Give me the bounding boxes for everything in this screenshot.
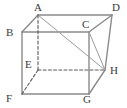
vertex-label-g: G <box>83 94 91 105</box>
vertex-label-a: A <box>34 2 42 13</box>
cube-edge-cd <box>89 15 112 32</box>
hidden-edge-group <box>22 15 105 94</box>
vertex-label-f: F <box>6 93 12 104</box>
vertex-label-c: C <box>82 19 89 30</box>
cube-edge-dh <box>105 15 112 70</box>
diagonal-edge-group <box>38 15 105 70</box>
cube-edge-ch <box>89 32 105 70</box>
cube-diagram-svg <box>0 0 127 108</box>
cube-edge-gh <box>89 70 105 94</box>
cube-edge-ah <box>38 15 105 70</box>
cube-edge-ef <box>22 70 38 94</box>
vertex-label-b: B <box>6 27 13 38</box>
vertex-label-h: H <box>110 65 118 76</box>
cube-figure: ABCDEFGH <box>0 0 127 108</box>
cube-edge-ab <box>22 15 38 32</box>
vertex-label-d: D <box>112 2 120 13</box>
vertex-label-e: E <box>25 59 32 70</box>
